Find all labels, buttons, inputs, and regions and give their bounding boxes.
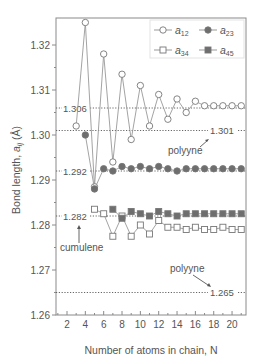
filled-circle-marker bbox=[174, 168, 180, 174]
filled-circle-marker bbox=[156, 163, 162, 169]
y-tick-label: 1.26 bbox=[31, 310, 51, 321]
annotation-polyyne-lower: polyyne bbox=[170, 263, 205, 274]
filled-square-marker bbox=[137, 211, 143, 217]
open-square-marker bbox=[92, 206, 98, 212]
annotation-arrow bbox=[193, 275, 208, 285]
open-square-marker bbox=[156, 218, 162, 224]
open-circle-marker bbox=[174, 96, 180, 102]
reference-label: 1.301 bbox=[210, 125, 234, 136]
y-tick-label: 1.30 bbox=[31, 130, 51, 141]
filled-circle-marker bbox=[100, 166, 106, 172]
open-circle-marker bbox=[192, 98, 198, 104]
x-tick-label: 18 bbox=[208, 319, 220, 330]
arrowhead-icon bbox=[77, 225, 81, 229]
open-circle-marker bbox=[146, 123, 152, 129]
open-circle-marker bbox=[73, 123, 79, 129]
open-square-marker bbox=[137, 222, 143, 228]
filled-circle-marker bbox=[110, 168, 116, 174]
open-square-marker bbox=[192, 224, 198, 230]
filled-square-marker bbox=[183, 211, 189, 217]
x-tick-label: 6 bbox=[101, 319, 107, 330]
reference-label: 1.292 bbox=[63, 166, 87, 177]
open-square-marker bbox=[229, 227, 235, 233]
x-tick-label: 20 bbox=[226, 319, 238, 330]
filled-square-marker bbox=[156, 209, 162, 215]
filled-circle-marker bbox=[91, 186, 97, 192]
filled-circle-marker bbox=[165, 166, 171, 172]
x-tick-label: 4 bbox=[83, 319, 89, 330]
filled-square-marker bbox=[192, 211, 198, 217]
filled-circle-marker bbox=[205, 27, 211, 33]
filled-square-marker bbox=[147, 213, 153, 219]
open-square-marker bbox=[202, 227, 208, 233]
open-square-marker bbox=[238, 227, 244, 233]
reference-label: 1.282 bbox=[63, 211, 87, 222]
open-square-marker bbox=[220, 224, 226, 230]
filled-circle-marker bbox=[238, 166, 244, 172]
filled-square-marker bbox=[238, 211, 244, 217]
open-circle-marker bbox=[119, 71, 125, 77]
filled-square-marker bbox=[211, 211, 217, 217]
open-circle-marker bbox=[100, 51, 106, 57]
x-tick-label: 16 bbox=[190, 319, 202, 330]
filled-square-marker bbox=[220, 211, 226, 217]
legend: a12a23a34a45 bbox=[150, 20, 244, 58]
x-tick-label: 10 bbox=[135, 319, 147, 330]
open-circle-marker bbox=[201, 103, 207, 109]
open-circle-marker bbox=[160, 27, 166, 33]
open-circle-marker bbox=[229, 103, 235, 109]
reference-label: 1.306 bbox=[63, 103, 87, 114]
open-circle-marker bbox=[128, 136, 134, 142]
open-circle-marker bbox=[220, 103, 226, 109]
filled-circle-marker bbox=[229, 166, 235, 172]
y-tick-label: 1.31 bbox=[31, 85, 51, 96]
filled-square-marker bbox=[202, 211, 208, 217]
open-circle-marker bbox=[183, 109, 189, 115]
open-circle-marker bbox=[165, 116, 171, 122]
open-circle-marker bbox=[82, 19, 88, 25]
filled-square-marker bbox=[110, 206, 116, 212]
filled-square-marker bbox=[205, 47, 211, 53]
open-square-marker bbox=[128, 233, 134, 239]
y-tick-label: 1.27 bbox=[31, 265, 51, 276]
open-circle-marker bbox=[238, 103, 244, 109]
open-square-marker bbox=[147, 231, 153, 237]
open-circle-marker bbox=[156, 91, 162, 97]
open-circle-marker bbox=[137, 82, 143, 88]
filled-circle-marker bbox=[146, 166, 152, 172]
filled-circle-marker bbox=[137, 163, 143, 169]
open-square-marker bbox=[110, 233, 116, 239]
filled-circle-marker bbox=[128, 166, 134, 172]
filled-circle-marker bbox=[82, 132, 88, 138]
x-tick-label: 2 bbox=[64, 319, 70, 330]
filled-circle-marker bbox=[220, 166, 226, 172]
filled-circle-marker bbox=[201, 166, 207, 172]
y-tick-label: 1.32 bbox=[31, 40, 51, 51]
y-tick-label: 1.28 bbox=[31, 220, 51, 231]
filled-circle-marker bbox=[211, 166, 217, 172]
series-a23 bbox=[82, 132, 244, 192]
y-tick-label: 1.29 bbox=[31, 175, 51, 186]
x-axis-label: Number of atoms in chain, N bbox=[84, 344, 217, 356]
filled-circle-marker bbox=[119, 163, 125, 169]
open-square-marker bbox=[101, 211, 107, 217]
series-line bbox=[85, 135, 241, 189]
open-square-marker bbox=[165, 224, 171, 230]
x-tick-label: 14 bbox=[171, 319, 183, 330]
filled-square-marker bbox=[174, 213, 180, 219]
filled-square-marker bbox=[229, 211, 235, 217]
filled-circle-marker bbox=[183, 166, 189, 172]
annotation-cumulene: cumulene bbox=[60, 242, 104, 253]
open-circle-marker bbox=[211, 103, 217, 109]
open-square-marker bbox=[183, 227, 189, 233]
x-tick-label: 8 bbox=[119, 319, 125, 330]
filled-square-marker bbox=[119, 215, 125, 221]
filled-square-marker bbox=[165, 211, 171, 217]
x-tick-label: 12 bbox=[153, 319, 165, 330]
annotation-polyyne-upper: polyyne bbox=[168, 145, 203, 156]
open-circle-marker bbox=[110, 159, 116, 165]
open-square-marker bbox=[211, 227, 217, 233]
reference-label: 1.265 bbox=[210, 287, 234, 298]
filled-square-marker bbox=[128, 209, 134, 215]
open-square-marker bbox=[160, 47, 166, 53]
